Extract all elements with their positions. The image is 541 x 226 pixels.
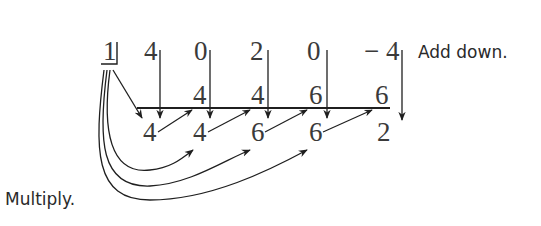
coefficient-5: − 4 bbox=[364, 36, 400, 66]
result-3: 6 bbox=[251, 117, 265, 147]
divisor-to-result-arrow bbox=[113, 70, 142, 118]
result-2: 4 bbox=[193, 117, 207, 147]
product-2: 4 bbox=[251, 80, 265, 110]
coefficient-1: 4 bbox=[144, 36, 158, 66]
product-4: 6 bbox=[375, 80, 389, 110]
synthetic-division-diagram: 1 4 0 2 0 − 4 Add down. 4 4 6 6 4 4 6 6 … bbox=[0, 0, 541, 226]
diagonal-arrows bbox=[158, 110, 372, 132]
result-5: 2 bbox=[377, 117, 391, 147]
coefficient-2: 0 bbox=[194, 36, 208, 66]
product-1: 4 bbox=[193, 80, 207, 110]
result-4: 6 bbox=[309, 117, 323, 147]
coefficient-3: 2 bbox=[250, 36, 264, 66]
multiply-label: Multiply. bbox=[5, 189, 75, 209]
coefficient-4: 0 bbox=[307, 36, 321, 66]
result-1: 4 bbox=[143, 117, 157, 147]
add-down-label: Add down. bbox=[418, 42, 508, 62]
product-3: 6 bbox=[309, 80, 323, 110]
divisor: 1 bbox=[103, 36, 117, 66]
